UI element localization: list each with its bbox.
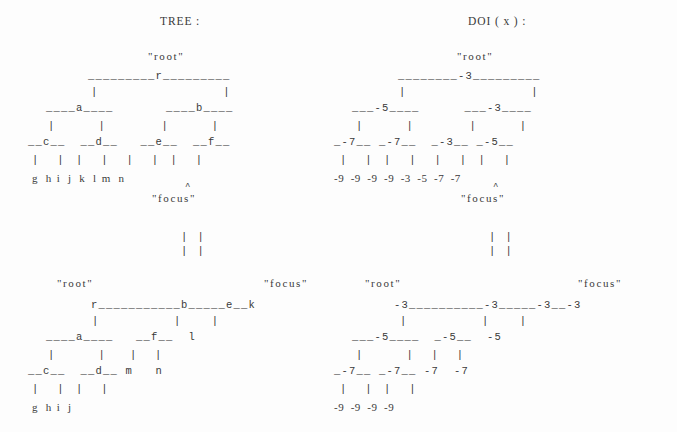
- tree-pruned-row-5: | | | |: [32, 381, 108, 398]
- tree-transition-arrow-right: | || |: [489, 230, 514, 258]
- doi-pruned-root-label: "root": [365, 277, 401, 289]
- tree-full-row-0: _________r_________: [88, 68, 231, 85]
- doi-pruned-row-5: | | | |: [340, 381, 416, 398]
- doi-full-row-1: | |: [399, 84, 538, 101]
- doi-pruned-focus-label: "focus": [578, 277, 622, 289]
- arrow-line-2: | |: [181, 245, 206, 257]
- tree-full-leaf-row: g h i j k l m n: [32, 170, 124, 187]
- doi-pruned-row-1: | | |: [400, 313, 526, 330]
- doi-pruned-row-0: -3__________-3_____-3__-3: [394, 297, 582, 314]
- tree-full-row-4: __c__ __d__ __e__ __f__: [28, 134, 231, 151]
- tree-pruned-leaf-row: g h i j: [32, 399, 71, 416]
- tree-transition-arrow-left: | || |: [181, 230, 206, 258]
- tree-full-focus-caret: ^: [185, 183, 190, 192]
- tree-pruned-row-2: ____a____ __f__ l: [46, 329, 196, 346]
- ascii-tree-doi-figure: { "figure": { "background_color": "#fdfd…: [0, 0, 677, 432]
- arrow-line-1-right: | |: [489, 231, 514, 243]
- tree-pruned-row-4: __c__ __d__ m n: [28, 363, 163, 380]
- doi-full-row-2: ___-5____ ___-3____: [352, 100, 532, 117]
- tree-full-focus-label: "focus": [152, 192, 196, 204]
- tree-full-row-3: | | | |: [48, 118, 218, 135]
- doi-pruned-row-2: ___-5____ _-5__ -5: [352, 329, 502, 346]
- tree-full-root-label: "root": [148, 50, 184, 62]
- tree-pruned-row-1: | | |: [92, 313, 218, 330]
- doi-pruned-leaf-row: -9 -9 -9 -9: [334, 399, 394, 416]
- doi-full-row-5: | | | | | | | |: [340, 152, 510, 169]
- doi-full-row-4: _-7__ _-7__ _-3__ _-5__: [334, 134, 514, 151]
- doi-pruned-row-3: | | | |: [356, 347, 463, 364]
- doi-full-row-3: | | | |: [356, 118, 526, 135]
- tree-pruned-row-0: r___________b_____e__k: [91, 297, 256, 314]
- doi-full-row-0: ________-3_________: [398, 68, 541, 85]
- arrow-line-2-right: | |: [489, 245, 514, 257]
- tree-pruned-row-3: | | | |: [48, 347, 161, 364]
- arrow-line-1: | |: [181, 231, 206, 243]
- doi-full-focus-label: "focus": [461, 192, 505, 204]
- doi-full-focus-caret: ^: [493, 183, 498, 192]
- tree-full-row-2: ____a____ ____b____: [46, 100, 234, 117]
- tree-panel-heading: TREE :: [160, 15, 200, 27]
- tree-full-row-1: | |: [91, 84, 230, 101]
- tree-full-row-5: | | | | | | | |: [32, 152, 202, 169]
- tree-pruned-focus-label: "focus": [264, 277, 308, 289]
- doi-full-root-label: "root": [457, 50, 493, 62]
- doi-pruned-row-4: _-7__ _-7__ -7 -7: [334, 363, 469, 380]
- doi-panel-heading: DOI ( x ) :: [468, 15, 526, 27]
- doi-full-leaf-row: -9 -9 -9 -9 -3 -5 -7 -7: [334, 170, 461, 187]
- tree-pruned-root-label: "root": [57, 277, 93, 289]
